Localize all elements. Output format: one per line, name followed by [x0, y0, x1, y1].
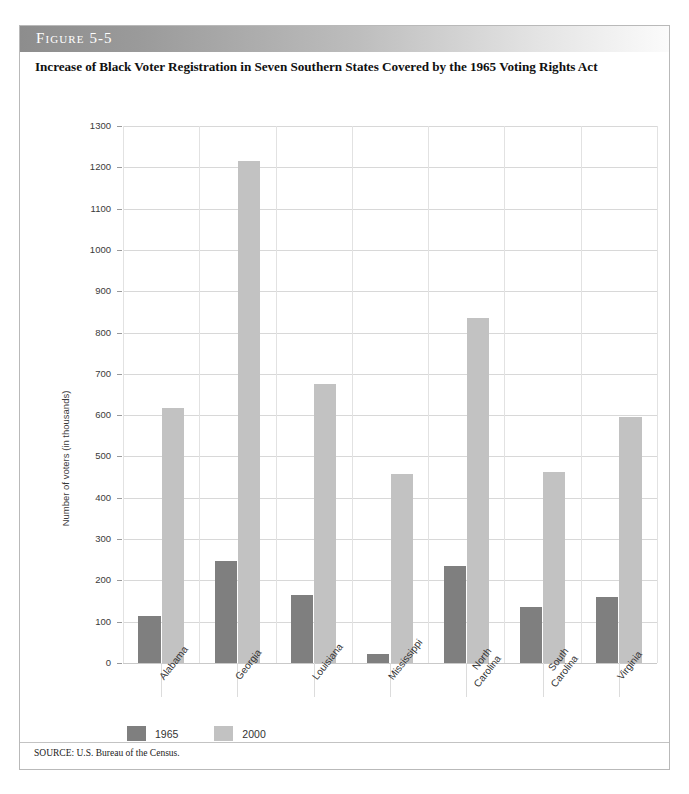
figure-number-label: Figure 5-5	[36, 30, 113, 47]
y-tick-label: 900	[65, 286, 111, 296]
y-tick-mark	[117, 580, 122, 581]
source-divider	[20, 742, 669, 743]
gridline-y-900	[123, 291, 657, 292]
figure-card: Figure 5-5 Increase of Black Voter Regis…	[19, 25, 670, 770]
bar-georgia-2000	[238, 161, 260, 663]
y-tick-label: 1200	[65, 162, 111, 172]
gridline-y-1100	[123, 209, 657, 210]
y-tick-mark	[117, 374, 122, 375]
y-tick-label: 800	[65, 328, 111, 338]
gridline-y-1000	[123, 250, 657, 251]
bar-mississippi-1965	[367, 654, 389, 663]
y-tick-mark	[117, 415, 122, 416]
y-tick-label: 600	[65, 410, 111, 420]
bar-south-carolina-1965	[520, 607, 542, 663]
y-tick-mark	[117, 209, 122, 210]
gridline-y-700	[123, 374, 657, 375]
y-tick-label: 0	[65, 658, 111, 668]
y-tick-mark	[117, 333, 122, 334]
bar-louisiana-1965	[291, 595, 313, 663]
y-tick-label: 300	[65, 534, 111, 544]
legend-item-2000: 2000	[214, 726, 265, 741]
gridline-x	[123, 126, 124, 663]
y-tick-mark	[117, 250, 122, 251]
y-tick-mark	[117, 456, 122, 457]
bar-alabama-1965	[138, 616, 160, 663]
gridline-y-500	[123, 456, 657, 457]
chart-title: Increase of Black Voter Registration in …	[35, 59, 660, 75]
legend-swatch-2000	[214, 726, 233, 741]
gridline-x	[199, 126, 200, 663]
bar-mississippi-2000	[391, 474, 413, 663]
y-tick-label: 500	[65, 451, 111, 461]
y-tick-label: 100	[65, 617, 111, 627]
y-tick-mark	[117, 126, 122, 127]
y-tick-label: 1100	[65, 204, 111, 214]
source-note: SOURCE: U.S. Bureau of the Census.	[34, 748, 180, 758]
y-tick-label: 700	[65, 369, 111, 379]
bar-alabama-2000	[162, 408, 184, 663]
y-tick-label: 200	[65, 575, 111, 585]
bar-georgia-1965	[215, 561, 237, 663]
gridline-y-1300	[123, 126, 657, 127]
y-tick-label: 400	[65, 493, 111, 503]
gridline-x	[504, 126, 505, 663]
gridline-x	[428, 126, 429, 663]
chart-legend: 19652000	[127, 726, 302, 741]
y-tick-mark	[117, 622, 122, 623]
chart-plot-wrapper: Number of voters (in thousands) 01002003…	[20, 83, 671, 733]
legend-swatch-1965	[127, 726, 146, 741]
gridline-x	[352, 126, 353, 663]
y-tick-mark	[117, 291, 122, 292]
plot-area: 0100200300400500600700800900100011001200…	[123, 126, 657, 663]
gridline-y-800	[123, 333, 657, 334]
gridline-y-600	[123, 415, 657, 416]
gridline-x	[581, 126, 582, 663]
gridline-y-1200	[123, 167, 657, 168]
bar-virginia-2000	[619, 417, 641, 663]
bar-north-carolina-2000	[467, 318, 489, 663]
legend-item-1965: 1965	[127, 726, 178, 741]
gridline-x	[657, 126, 658, 663]
gridline-x	[276, 126, 277, 663]
y-tick-label: 1000	[65, 245, 111, 255]
bar-virginia-1965	[596, 597, 618, 663]
legend-label: 2000	[242, 728, 265, 740]
bar-south-carolina-2000	[543, 472, 565, 663]
y-tick-mark	[117, 498, 122, 499]
y-tick-mark	[117, 663, 122, 664]
bar-north-carolina-1965	[444, 566, 466, 663]
figure-header-band: Figure 5-5	[20, 26, 669, 52]
y-tick-label: 1300	[65, 121, 111, 131]
y-tick-mark	[117, 167, 122, 168]
y-tick-mark	[117, 539, 122, 540]
legend-label: 1965	[155, 728, 178, 740]
bar-louisiana-2000	[314, 384, 336, 663]
